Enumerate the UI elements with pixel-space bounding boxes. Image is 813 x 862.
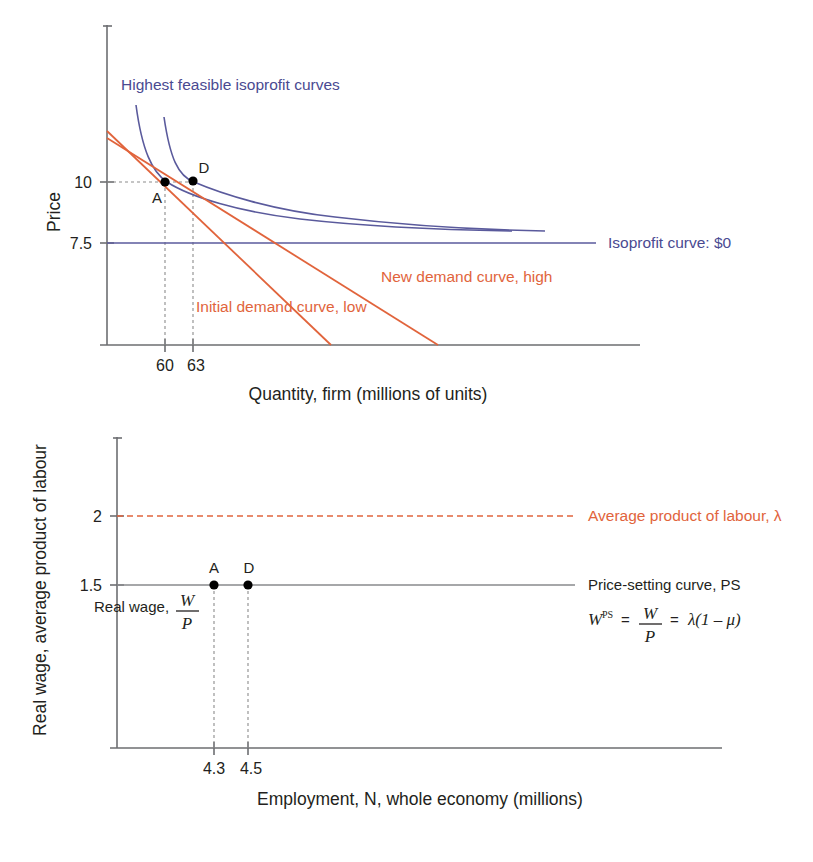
economy-xtick-label-4-5: 4.5 xyxy=(240,760,262,777)
economy-real-wage-text: Real wage, xyxy=(94,598,169,615)
economy-eq-lhs-superscript: PS xyxy=(602,609,613,620)
firm-point-label-d: D xyxy=(199,159,210,176)
economy-y-axis-title: Real wage, average product of labour xyxy=(30,444,50,736)
economy-ytick-label-2: 2 xyxy=(93,508,102,525)
economy-eq-numerator: W xyxy=(643,604,659,623)
firm-ytick-label-7-5: 7.5 xyxy=(70,235,92,252)
economy-panel: 2 1.5 4.3 4.5 A D Real wage, W P Average… xyxy=(30,437,782,809)
firm-x-axis-title: Quantity, firm (millions of units) xyxy=(249,384,488,404)
economy-x-axis-title: Employment, N, whole economy (millions) xyxy=(257,789,583,809)
economy-xtick-label-4-3: 4.3 xyxy=(203,760,225,777)
firm-annotation-isoprofit-zero: Isoprofit curve: $0 xyxy=(608,234,732,251)
economy-ps-equation: W PS = W P = λ(1 – μ) xyxy=(588,604,741,646)
economy-eq-equals-2: = xyxy=(670,611,679,628)
figure-canvas: 10 7.5 60 63 A D Highest feasible isopro… xyxy=(0,0,813,862)
economy-annotation-ps: Price-setting curve, PS xyxy=(588,576,741,593)
firm-ytick-label-10: 10 xyxy=(74,174,92,191)
firm-point-d xyxy=(188,176,197,185)
firm-xtick-label-60: 60 xyxy=(156,357,174,374)
firm-isoprofit-curve-d xyxy=(164,117,545,231)
firm-annotation-isoprofit-group: Highest feasible isoprofit curves xyxy=(121,76,340,93)
firm-y-axis-title: Price xyxy=(44,192,64,232)
economy-ytick-label-1-5: 1.5 xyxy=(80,577,102,594)
firm-point-label-a: A xyxy=(152,189,162,206)
economy-point-label-d: D xyxy=(244,559,255,576)
economy-point-d xyxy=(243,580,252,589)
economy-real-wage-label: Real wage, W P xyxy=(94,591,199,633)
economy-eq-rhs: λ(1 – μ) xyxy=(687,610,741,629)
firm-panel: 10 7.5 60 63 A D Highest feasible isopro… xyxy=(44,25,732,404)
economy-point-label-a: A xyxy=(209,559,219,576)
economy-real-wage-numerator: W xyxy=(180,591,196,610)
firm-point-a xyxy=(160,177,169,186)
firm-annotation-demand-initial: Initial demand curve, low xyxy=(196,298,367,315)
economy-annotation-apl: Average product of labour, λ xyxy=(588,507,782,524)
economy-point-a xyxy=(209,580,218,589)
economy-eq-denominator: P xyxy=(644,627,655,646)
firm-annotation-demand-new: New demand curve, high xyxy=(381,268,552,285)
economy-real-wage-denominator: P xyxy=(181,614,192,633)
economics-figure: 10 7.5 60 63 A D Highest feasible isopro… xyxy=(0,0,813,862)
economy-eq-equals-1: = xyxy=(621,611,630,628)
firm-xtick-label-63: 63 xyxy=(187,357,205,374)
